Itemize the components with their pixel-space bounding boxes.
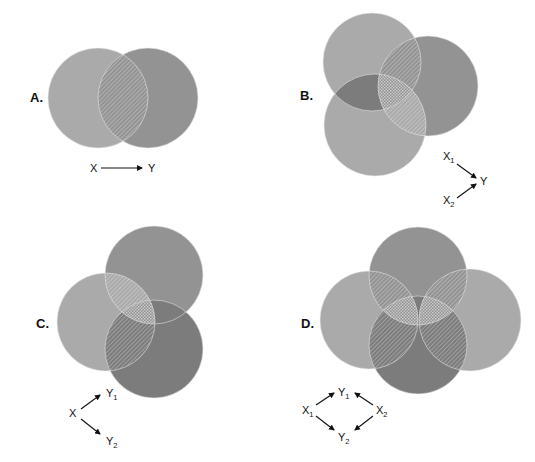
variable-y: Y bbox=[148, 162, 156, 174]
variable-y1: Y1 bbox=[106, 387, 118, 402]
variable-y: Y bbox=[480, 175, 488, 187]
arrow bbox=[316, 393, 334, 405]
causal-diagram-a: XY bbox=[90, 162, 156, 174]
variable-x1: X1 bbox=[443, 150, 455, 165]
variable-x1: X1 bbox=[302, 404, 314, 419]
panel-label-d: D. bbox=[301, 316, 314, 331]
causal-diagram-b: X1YX2 bbox=[443, 150, 488, 209]
arrow bbox=[81, 395, 100, 409]
arrow bbox=[457, 184, 476, 198]
venn-diagram-figure: A.XYB.X1YX2C.XY1Y2D.X1Y1X2Y2 bbox=[0, 0, 535, 462]
variable-x2: X2 bbox=[443, 194, 455, 209]
causal-diagram-c: XY1Y2 bbox=[69, 387, 118, 450]
variable-x: X bbox=[90, 162, 98, 174]
arrow bbox=[457, 164, 476, 178]
arrow bbox=[316, 416, 334, 430]
arrow bbox=[355, 416, 373, 430]
variable-y1: Y1 bbox=[338, 386, 350, 401]
variable-x: X bbox=[69, 407, 77, 419]
panel-label-c: C. bbox=[36, 316, 49, 331]
panel-label-a: A. bbox=[30, 90, 43, 105]
arrow bbox=[81, 419, 100, 434]
panel-label-b: B. bbox=[300, 88, 313, 103]
variable-y2: Y2 bbox=[338, 431, 350, 446]
variable-x2: X2 bbox=[376, 404, 388, 419]
variable-y2: Y2 bbox=[106, 435, 118, 450]
causal-diagram-d: X1Y1X2Y2 bbox=[302, 386, 388, 446]
arrow bbox=[355, 393, 373, 405]
